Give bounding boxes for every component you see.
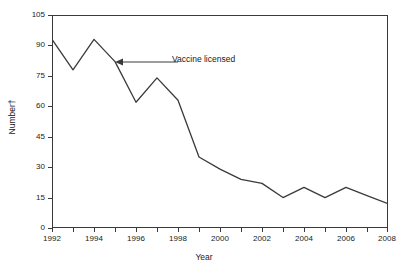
y-tick-label-105: 105: [32, 11, 45, 19]
x-tick-label-2002: 2002: [242, 234, 282, 243]
y-tick-label-75: 75: [36, 72, 45, 80]
x-tick-mark-1999: [199, 228, 200, 232]
x-tick-mark-1994: [94, 228, 95, 232]
x-tick-label-2000: 2000: [200, 234, 240, 243]
x-tick-mark-2004: [304, 228, 305, 232]
x-tick-mark-1995: [115, 228, 116, 232]
x-tick-mark-1993: [73, 228, 74, 232]
x-tick-mark-1996: [136, 228, 137, 232]
y-tick-label-60: 60: [36, 102, 45, 110]
x-tick-mark-1997: [157, 228, 158, 232]
x-tick-mark-2006: [346, 228, 347, 232]
x-tick-label-2004: 2004: [284, 234, 324, 243]
x-tick-label-2008: 2008: [367, 234, 407, 243]
x-axis-title: Year: [0, 252, 408, 262]
vaccine-licensed-annotation-label: Vaccine licensed: [172, 54, 235, 64]
y-tick-label-30: 30: [36, 163, 45, 171]
y-tick-label-15: 15: [36, 194, 45, 202]
x-tick-mark-2000: [220, 228, 221, 232]
x-tick-label-2006: 2006: [326, 234, 366, 243]
x-tick-mark-1992: [52, 228, 53, 232]
vaccine-licensed-arrow-icon: [110, 52, 180, 72]
y-tick-label-90: 90: [36, 41, 45, 49]
x-tick-mark-2008: [387, 228, 388, 232]
chart-figure: 105 90 75 60 45 30 15 0: [0, 0, 408, 273]
x-tick-label-1992: 1992: [32, 234, 72, 243]
x-tick-mark-2007: [367, 228, 368, 232]
x-tick-mark-2002: [262, 228, 263, 232]
y-tick-label-45: 45: [36, 133, 45, 141]
x-tick-label-1994: 1994: [74, 234, 114, 243]
x-tick-mark-2001: [241, 228, 242, 232]
x-tick-mark-1998: [178, 228, 179, 232]
y-axis-title: Number†: [7, 87, 17, 147]
x-tick-label-1998: 1998: [158, 234, 198, 243]
y-tick-label-0: 0: [41, 224, 45, 232]
data-line-series: [52, 15, 388, 228]
x-tick-mark-2005: [325, 228, 326, 232]
x-tick-mark-2003: [283, 228, 284, 232]
x-tick-label-1996: 1996: [116, 234, 156, 243]
